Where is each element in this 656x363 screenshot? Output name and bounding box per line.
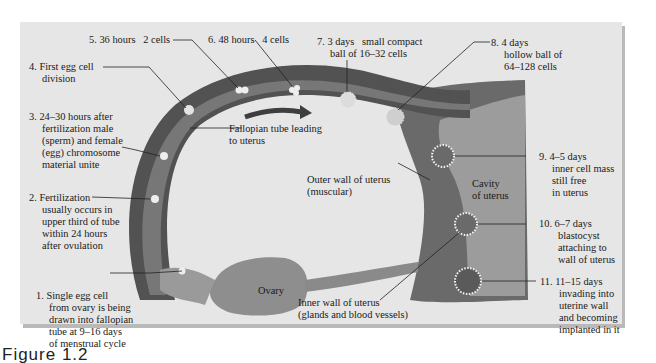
morula-7 bbox=[340, 92, 356, 108]
label-stage-1: 1. Single egg cellfrom ovary is beingdra… bbox=[36, 290, 133, 350]
label-stage-2: 2. Fertilizationusually occurs inupper t… bbox=[29, 192, 120, 252]
blastocyst-10 bbox=[455, 213, 477, 235]
inner-cell-mass-9 bbox=[432, 145, 454, 167]
label-ovary: Ovary bbox=[258, 285, 284, 297]
label-stage-5: 5. 36 hours 2 cells bbox=[89, 34, 170, 46]
flow-arrow-head bbox=[300, 105, 312, 119]
label-stage-4: 4. First egg celldivision bbox=[29, 61, 94, 85]
flow-arrow bbox=[245, 110, 302, 117]
label-outer-wall: Outer wall of uterus(muscular) bbox=[307, 174, 390, 198]
label-stage-9: 9. 4–5 daysinner cell massstill freein u… bbox=[539, 151, 614, 199]
label-uterine-cavity: Cavityof uterus bbox=[472, 178, 509, 202]
figure-caption: Figure 1.2 bbox=[2, 345, 89, 363]
ovarian-ligament bbox=[305, 262, 418, 292]
label-fallopian-tube: Fallopian tube leadingto uterus bbox=[229, 123, 322, 147]
label-stage-8: 8. 4 dayshollow ball of64–128 cells bbox=[491, 37, 562, 73]
first-division-4 bbox=[184, 105, 194, 115]
label-stage-11: 11. 11–15 daysinvading intouterine walla… bbox=[540, 276, 620, 336]
label-inner-wall: Inner wall of uterus(glands and blood ve… bbox=[298, 297, 408, 321]
label-stage-6: 6. 48 hours 4 cells bbox=[208, 34, 289, 46]
fertilized-egg-2 bbox=[151, 195, 159, 203]
label-stage-7: 7. 3 days small compactball of 16–32 cel… bbox=[317, 36, 422, 60]
zygote-3 bbox=[160, 152, 168, 160]
implanted-blastocyst-11 bbox=[455, 268, 481, 294]
label-stage-3: 3. 24–30 hours afterfertilization male(s… bbox=[29, 111, 123, 171]
label-stage-10: 10. 6–7 daysblastocystattaching towall o… bbox=[539, 218, 615, 266]
hollow-ball-8 bbox=[386, 108, 404, 126]
